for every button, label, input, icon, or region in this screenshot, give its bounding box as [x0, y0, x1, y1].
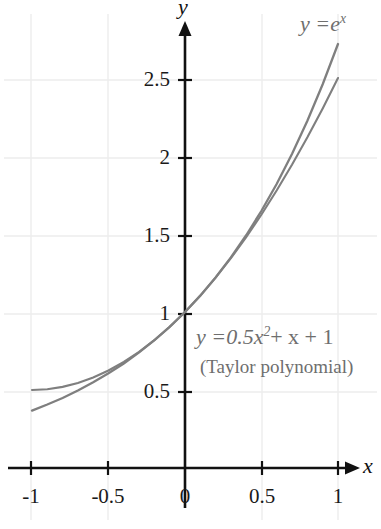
taylor-tail: + x + 1 — [270, 324, 333, 349]
x-axis-label: x — [363, 455, 373, 477]
xtick-label-neg05: -0.5 — [78, 486, 138, 507]
exp-power: x — [340, 11, 346, 26]
exp-lhs: y = — [300, 11, 330, 36]
taylor-sublabel: (Taylor polynomial) — [200, 357, 353, 376]
figure-exponential-vs-taylor: y x 2.5 2 1.5 1 0.5 -1 -0.5 0 0.5 1 y =e… — [0, 0, 381, 529]
xtick-label-05: 0.5 — [232, 486, 292, 507]
taylor-coeff: 0.5x — [226, 324, 263, 349]
ytick-label-25: 2.5 — [104, 69, 170, 90]
ytick-label-15: 1.5 — [104, 225, 170, 246]
taylor-lhs: y = — [196, 324, 226, 349]
x-axis-arrow-icon — [345, 462, 360, 475]
exponential-curve-annotation: y =ex — [300, 12, 346, 35]
exp-base: e — [330, 11, 340, 36]
y-axis — [178, 21, 192, 508]
y-axis-arrow-icon — [179, 21, 192, 36]
taylor-curve-annotation: y =0.5x2+ x + 1 — [196, 325, 334, 348]
ytick-label-1: 1 — [104, 303, 170, 324]
ytick-label-05: 0.5 — [104, 381, 170, 402]
xtick-label-neg1: -1 — [1, 486, 61, 507]
xtick-label-0: 0 — [155, 486, 215, 507]
ytick-label-2: 2 — [104, 147, 170, 168]
xtick-label-1: 1 — [308, 486, 368, 507]
plot-canvas — [0, 0, 381, 529]
y-axis-label: y — [178, 0, 188, 18]
